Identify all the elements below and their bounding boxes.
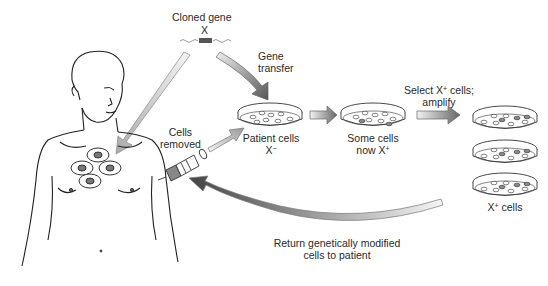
petri-dish-some-cells-xplus (341, 103, 405, 126)
some-cells-line2: now X+ (342, 144, 404, 156)
cells-removed-label: Cells removed (160, 126, 201, 150)
select-amplify-arrow (417, 106, 460, 124)
culture-arrow (310, 106, 337, 124)
petri-dish-patient-cells (238, 103, 302, 126)
gene-transfer-label: Gene transfer (258, 50, 294, 74)
petri-dish-xplus-2 (473, 140, 537, 163)
xplus-cells-label: X+ cells (478, 201, 532, 213)
select-line2: amplify (398, 96, 480, 108)
select-amplify-label: Select X+ cells; amplify (398, 84, 480, 108)
gene-x-label: X (201, 24, 208, 36)
return-cells-label: Return genetically modified cells to pat… (262, 237, 412, 261)
petri-dish-xplus-1 (473, 106, 537, 129)
petri-dish-xplus-3 (473, 173, 537, 196)
some-cells-label: Some cells now X+ (342, 132, 404, 156)
select-line1: Select X+ cells; (398, 84, 480, 96)
patient-cells-label: Patient cells X− (240, 132, 302, 156)
return-line1: Return genetically modified (262, 237, 412, 249)
cells-removed-line1: Cells (160, 126, 201, 138)
nipple-marks (69, 188, 133, 252)
patient-cells-line1: Patient cells (240, 132, 302, 144)
injection-sites (71, 148, 121, 188)
gene-transfer-line2: transfer (258, 62, 294, 74)
cells-removed-line2: removed (160, 138, 201, 150)
some-cells-line1: Some cells (342, 132, 404, 144)
return-cells-arrow (189, 176, 443, 221)
gene-transfer-line1: Gene (258, 50, 294, 62)
return-line2: cells to patient (262, 249, 412, 261)
cells-removed-arrow (208, 128, 244, 152)
patient-cells-genotype: X− (240, 144, 302, 156)
cloned-gene-label: Cloned gene (172, 11, 232, 23)
cloned-gene-icon (180, 38, 231, 43)
